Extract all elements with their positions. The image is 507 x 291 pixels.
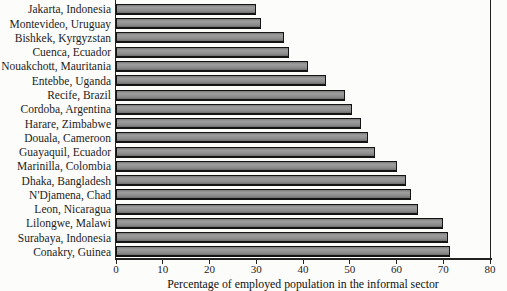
bar bbox=[116, 90, 345, 101]
category-label: Recife, Brazil bbox=[0, 88, 111, 102]
bar bbox=[116, 218, 443, 229]
category-label: Entebbe, Uganda bbox=[0, 74, 111, 88]
bar bbox=[116, 246, 450, 257]
right-border-line bbox=[490, 0, 491, 259]
category-label: Harare, Zimbabwe bbox=[0, 117, 111, 131]
category-label: N'Djamena, Chad bbox=[0, 188, 111, 202]
category-label: Dhaka, Bangladesh bbox=[0, 174, 111, 188]
category-label: Jakarta, Indonesia bbox=[0, 2, 111, 16]
bar bbox=[116, 4, 256, 15]
category-label: Lilongwe, Malawi bbox=[0, 216, 111, 230]
category-label: Leon, Nicaragua bbox=[0, 202, 111, 216]
bar bbox=[116, 132, 368, 143]
informal-sector-bar-chart: Jakarta, IndonesiaMontevideo, UruguayBis… bbox=[0, 0, 507, 291]
category-label: Montevideo, Uruguay bbox=[0, 17, 111, 31]
bar bbox=[116, 61, 308, 72]
x-tick-label: 20 bbox=[195, 263, 225, 275]
category-label: Bishkek, Kyrgyzstan bbox=[0, 31, 111, 45]
x-tick-label: 70 bbox=[428, 263, 458, 275]
x-tick-label: 60 bbox=[382, 263, 412, 275]
bar bbox=[116, 161, 397, 172]
bar bbox=[116, 18, 261, 29]
category-label: Nouakchott, Mauritania bbox=[0, 59, 111, 73]
bar bbox=[116, 47, 289, 58]
bar bbox=[116, 189, 411, 200]
y-axis-line bbox=[115, 0, 117, 259]
x-tick-label: 50 bbox=[335, 263, 365, 275]
bar bbox=[116, 232, 448, 243]
category-label: Guayaquil, Ecuador bbox=[0, 145, 111, 159]
bar bbox=[116, 75, 326, 86]
x-tick-label: 10 bbox=[148, 263, 178, 275]
x-tick-label: 0 bbox=[101, 263, 131, 275]
category-label: Conakry, Guinea bbox=[0, 245, 111, 259]
bar bbox=[116, 175, 406, 186]
category-label: Surabaya, Indonesia bbox=[0, 231, 111, 245]
x-tick-label: 80 bbox=[475, 263, 505, 275]
bar bbox=[116, 118, 361, 129]
x-tick-label: 40 bbox=[288, 263, 318, 275]
x-tick-label: 30 bbox=[241, 263, 271, 275]
bar bbox=[116, 104, 352, 115]
category-label: Cuenca, Ecuador bbox=[0, 45, 111, 59]
x-axis-title: Percentage of employed population in the… bbox=[116, 277, 490, 291]
bar bbox=[116, 32, 284, 43]
category-label: Marinilla, Colombia bbox=[0, 159, 111, 173]
category-label: Cordoba, Argentina bbox=[0, 102, 111, 116]
bar bbox=[116, 147, 375, 158]
category-label: Douala, Cameroon bbox=[0, 131, 111, 145]
bar bbox=[116, 204, 418, 215]
